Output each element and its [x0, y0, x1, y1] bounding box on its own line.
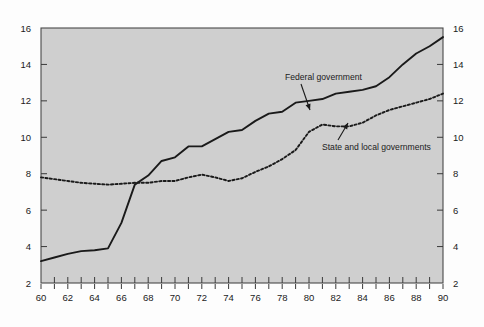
- x-tick-label: 90: [438, 292, 449, 303]
- x-tick-label: 66: [116, 292, 127, 303]
- y-tick-label-left: 16: [20, 23, 31, 34]
- x-tick-label: 70: [170, 292, 181, 303]
- y-tick-label-left: 12: [20, 95, 31, 106]
- y-tick-label-right: 14: [453, 59, 464, 70]
- y-tick-label-left: 2: [26, 278, 31, 289]
- y-tick-label-left: 14: [20, 59, 31, 70]
- y-tick-label-right: 16: [453, 23, 464, 34]
- x-tick-label: 88: [411, 292, 422, 303]
- x-tick-label: 64: [89, 292, 100, 303]
- y-tick-label-left: 4: [26, 241, 31, 252]
- y-tick-label-right: 6: [453, 205, 458, 216]
- y-tick-label-right: 8: [453, 168, 458, 179]
- x-tick-label: 72: [197, 292, 208, 303]
- y-tick-label-right: 2: [453, 278, 458, 289]
- x-tick-label: 82: [331, 292, 342, 303]
- y-tick-label-left: 10: [20, 132, 31, 143]
- y-tick-label-right: 4: [453, 241, 458, 252]
- x-tick-label: 80: [304, 292, 315, 303]
- x-tick-label: 62: [63, 292, 74, 303]
- plot-area-background: [41, 28, 443, 283]
- y-axis-right-labels: 246810121416: [453, 23, 464, 289]
- x-tick-label: 74: [223, 292, 234, 303]
- y-axis-left-labels: 246810121416: [20, 23, 31, 289]
- y-tick-label-right: 12: [453, 95, 464, 106]
- y-tick-label-right: 10: [453, 132, 464, 143]
- y-tick-label-left: 8: [26, 168, 31, 179]
- x-tick-label: 60: [36, 292, 47, 303]
- x-tick-label: 68: [143, 292, 154, 303]
- x-tick-label: 76: [250, 292, 261, 303]
- chart-page: 246810121416 246810121416 60626466687072…: [0, 0, 484, 327]
- x-tick-label: 86: [384, 292, 395, 303]
- x-tick-label: 78: [277, 292, 288, 303]
- line-chart: 246810121416 246810121416 60626466687072…: [0, 0, 484, 327]
- x-tick-label: 84: [357, 292, 368, 303]
- series-label-state-and-local-governments: State and local governments: [322, 142, 431, 152]
- y-tick-label-left: 6: [26, 205, 31, 216]
- x-axis-labels: 60626466687072747678808284868890: [36, 292, 449, 303]
- series-label-federal-government: Federal government: [285, 72, 363, 82]
